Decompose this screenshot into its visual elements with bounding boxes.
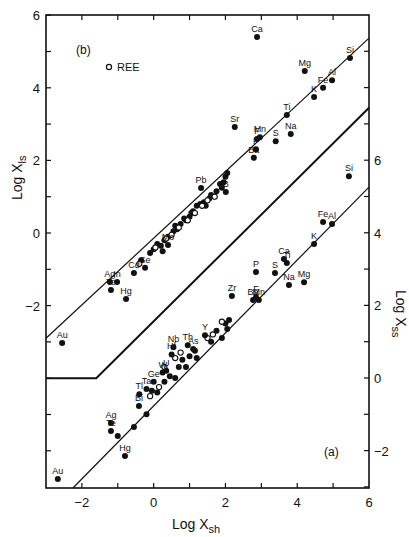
open-point [210,332,215,337]
y-right-tick-label: 6 [374,153,381,168]
point-label: Sr [230,114,239,124]
labeled-point [284,112,290,118]
point-label: Se [140,255,151,265]
labeled-point [59,340,65,346]
scatter-chart: −202466420−26420−2 CaSiMgAlFeKTiSrNaMnFS… [0,0,409,537]
point-label: Hg [120,286,132,296]
labeled-point [320,219,326,225]
open-circle-marker-icon [106,64,111,69]
open-point [153,245,158,250]
filled-point [176,364,182,370]
point-label: Mg [298,269,311,279]
labeled-point [229,293,235,299]
filled-point [183,364,189,370]
open-point [212,194,217,199]
x-axis-label-main: Log X [172,516,209,532]
labeled-point [55,476,61,482]
point-label: F [254,126,260,136]
filled-point [154,390,160,396]
point-label: Fe [318,209,329,219]
point-label: B [223,179,229,189]
y-right-tick-label: 0 [374,371,381,386]
labeled-point [131,270,137,276]
labeled-point [169,351,175,357]
legend-ree-label: REE [117,61,140,73]
labeled-point [311,94,317,100]
open-point [219,319,224,324]
x-tick-label: 0 [150,495,157,510]
point-label: Au [52,466,63,476]
fit-lines [46,38,369,488]
y-left-tick-label: −2 [25,299,40,314]
y-axis-right-label-sub: ss [390,327,402,339]
point-label: K [311,84,317,94]
point-label: Ca [251,24,263,34]
y-right-tick-label: −2 [374,444,389,459]
labeled-point [122,453,128,459]
open-point [205,198,210,203]
point-label: Na [285,121,297,131]
y-axis-right-label: Log Xss [390,290,409,338]
x-tick-label: 2 [222,495,229,510]
filled-point [158,243,164,249]
labeled-point [253,269,259,275]
point-label: Ba [248,145,259,155]
labeled-point [190,346,196,352]
labeled-point [286,282,292,288]
panel-b-label: (b) [76,43,91,57]
point-label: Hg [119,443,131,453]
y-left-tick-label: 6 [33,8,40,23]
labeled-point [160,370,166,376]
labeled-point [198,185,204,191]
y-axis-left-label: Log Xls [9,155,28,200]
point-label: Bi [135,393,143,403]
x-tick-label: −2 [74,495,89,510]
point-label: Na [283,272,295,282]
point-label: Ti [283,250,290,260]
y-axis-left-label-main: Log X [9,163,25,200]
point-label: Hf [167,341,176,351]
labeled-point [251,155,257,161]
filled-point [213,188,219,194]
labeled-point [165,242,171,248]
open-point [200,203,205,208]
point-label: Si [345,163,353,173]
labeled-point [301,279,307,285]
point-label: Cd [128,260,140,270]
y-left-tick-label: 4 [33,81,40,96]
labeled-point [143,386,149,392]
y-axis-right-label-main: Log X [393,290,409,327]
point-label: Si [346,45,354,55]
y-right-tick-label: 2 [374,298,381,313]
filled-point [226,317,232,323]
point-label: Pb [196,175,207,185]
data-points [55,34,353,482]
filled-point [167,373,173,379]
filled-point [224,326,230,332]
point-label: S [273,128,279,138]
point-labels: CaSiMgAlFeKTiSrNaMnFSPBaPbBMoSeCdInAgTeH… [52,24,354,476]
labeled-point [302,68,308,74]
labeled-point [250,297,256,303]
y-left-tick-label: 0 [33,226,40,241]
point-label: Mo [162,232,175,242]
labeled-point [346,173,352,179]
open-point [176,225,181,230]
labeled-point [288,131,294,137]
open-point [147,394,152,399]
filled-point [224,170,230,176]
filled-point [131,424,137,430]
filled-point [143,411,149,417]
x-tick-label: 4 [294,495,301,510]
labeled-point [223,189,229,195]
point-label: Al [328,211,336,221]
labeled-point [254,34,260,40]
filled-point [194,355,200,361]
point-label: Te [106,277,116,287]
open-point [156,384,161,389]
labeled-point [284,260,290,266]
filled-point [219,335,225,341]
x-tick-label: 6 [365,495,372,510]
labeled-point [273,138,279,144]
labeled-point [232,124,238,130]
